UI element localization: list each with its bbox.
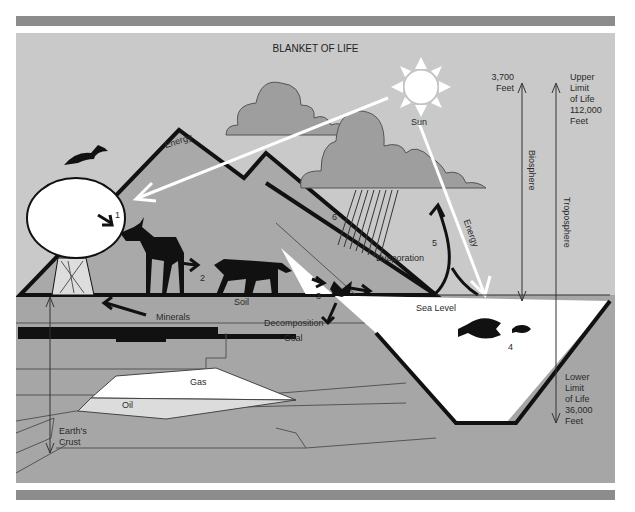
soil-label: Soil <box>234 297 249 308</box>
gas-label: Gas <box>190 377 207 388</box>
diagram-title: BLANKET OF LIFE <box>16 43 615 54</box>
earths-crust-label: Earth's Crust <box>59 426 87 448</box>
coal-label: Coal <box>284 333 303 344</box>
evaporation-label: Evaporation <box>376 253 424 264</box>
troposphere-label: Troposphere <box>562 197 572 248</box>
oil-label: Oil <box>122 400 133 411</box>
step-6-label: 6 <box>332 212 337 223</box>
step-2-label: 2 <box>200 273 205 284</box>
decomposition-label: Decomposition <box>264 318 324 329</box>
biosphere-top-label: 3,700 Feet <box>484 72 514 94</box>
diagram-artwork <box>16 33 615 483</box>
step-4-label: 4 <box>508 342 513 353</box>
minerals-label: Minerals <box>156 312 190 323</box>
energy-arrow-to-sea <box>419 123 490 295</box>
bottom-frame-bar <box>16 490 615 500</box>
step-3-label: 3 <box>316 291 321 302</box>
top-frame-bar <box>16 16 615 26</box>
sea-level-label: Sea Level <box>416 303 456 314</box>
sun-label: Sun <box>411 117 427 128</box>
lower-limit-label: Lower Limit of Life 36,000 Feet <box>565 372 593 427</box>
diagram-panel: BLANKET OF LIFE Sun Energy Energy Evapor… <box>16 33 615 483</box>
biosphere-label: Biosphere <box>527 150 537 191</box>
bird-icon <box>64 145 108 165</box>
upper-limit-label: Upper Limit of Life 112,000 Feet <box>570 72 602 127</box>
step-5-label: 5 <box>432 238 437 249</box>
step-1-label: 1 <box>115 210 120 221</box>
sun-icon <box>391 57 451 117</box>
